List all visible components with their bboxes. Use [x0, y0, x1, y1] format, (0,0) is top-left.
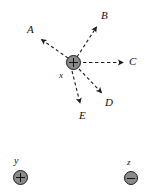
charge-label-z: z: [127, 157, 131, 167]
charge-x-positive: [66, 55, 81, 70]
vector-label-E: E: [79, 110, 86, 121]
charge-y-positive: [13, 170, 28, 185]
plus-sign-icon: [67, 56, 80, 69]
vector-arrow-A: [42, 40, 69, 59]
plus-sign-icon: [14, 171, 27, 184]
vector-arrow-E: [72, 71, 80, 103]
physics-diagram-figure: A B C D E x y z: [0, 0, 149, 194]
charge-label-y: y: [14, 156, 18, 166]
vector-arrow-B: [77, 27, 97, 57]
charge-z-negative: [124, 171, 138, 185]
vector-label-B: B: [101, 10, 108, 21]
charge-label-x: x: [59, 70, 63, 80]
vector-label-A: A: [27, 24, 34, 35]
vector-label-C: C: [129, 56, 136, 67]
vector-label-D: D: [105, 97, 113, 108]
vector-arrow-D: [79, 69, 102, 93]
minus-sign-icon: [125, 172, 137, 184]
